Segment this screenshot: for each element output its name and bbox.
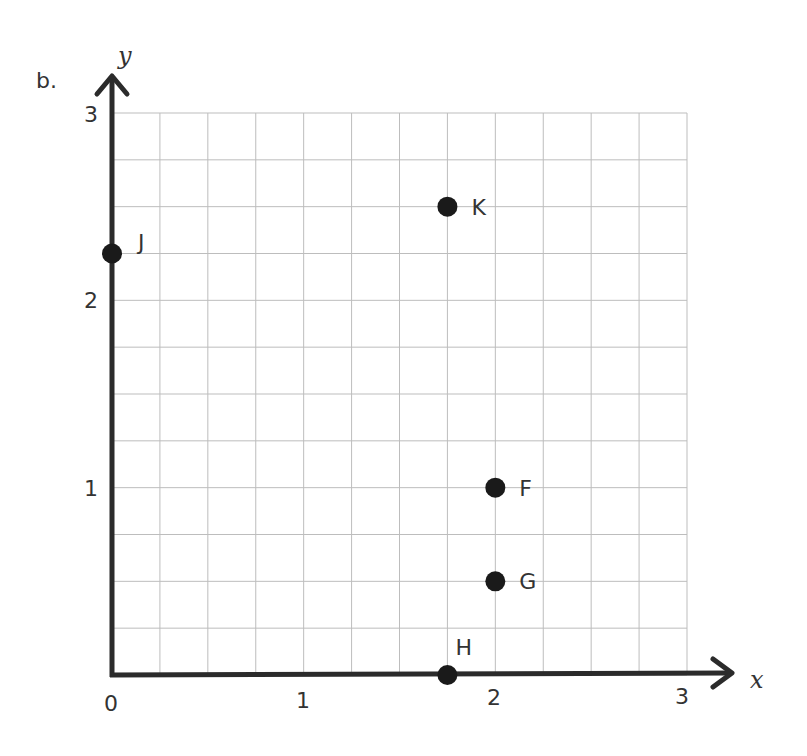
grid-lines [112,113,687,675]
point-label-J: J [138,232,145,254]
coordinate-plane [0,0,807,756]
point-J [102,244,122,264]
point-label-G: G [519,571,536,593]
point-label-K: K [471,197,485,219]
axes [97,76,732,687]
point-H [437,665,457,685]
point-F [485,478,505,498]
point-label-H: H [455,637,472,659]
point-label-F: F [519,478,532,500]
point-K [437,197,457,217]
point-G [485,571,505,591]
